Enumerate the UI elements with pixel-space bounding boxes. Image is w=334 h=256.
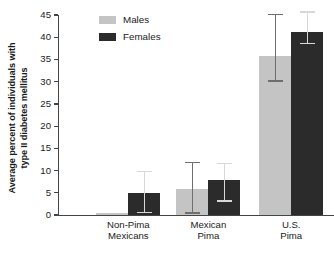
error-bar-stem	[144, 172, 145, 213]
y-axis-tick-label: 35	[29, 53, 51, 65]
y-axis-tick-label: 5	[29, 187, 51, 199]
y-axis-title-line-1: Average percent of individuals with	[7, 18, 19, 218]
y-axis-tick: 15	[28, 142, 58, 154]
error-bar	[208, 15, 240, 215]
y-axis-tick: 45	[28, 9, 58, 21]
bar-chart: Average percent of individuals with type…	[0, 0, 334, 256]
error-bar-stem	[192, 163, 193, 214]
y-axis-tick-mark	[54, 81, 58, 82]
x-axis-group-label: U.S.Pima	[241, 219, 334, 242]
error-bar-cap-lower	[217, 200, 232, 201]
x-axis-line	[58, 215, 334, 216]
y-axis-tick-mark	[54, 103, 58, 104]
legend-swatch	[99, 33, 116, 42]
legend-label: Males	[123, 15, 149, 25]
error-bar-cap-upper	[300, 11, 315, 12]
y-axis-tick-label: 40	[29, 31, 51, 43]
error-bar-cap-upper	[217, 163, 232, 164]
y-axis-tick-mark	[54, 14, 58, 15]
x-axis-group-label-line: Pima	[241, 230, 334, 241]
y-axis-tick: 35	[28, 53, 58, 65]
y-axis-tick: 10	[28, 165, 58, 177]
y-axis-tick: 40	[28, 31, 58, 43]
y-axis-tick-label: 30	[29, 76, 51, 88]
y-axis-tick-label: 20	[29, 120, 51, 132]
error-bar-cap-lower	[268, 80, 283, 81]
y-axis-tick-label: 15	[29, 142, 51, 154]
y-axis-tick-label: 25	[29, 98, 51, 110]
y-axis-tick: 30	[28, 76, 58, 88]
y-axis-line	[58, 15, 59, 215]
x-axis-group-label-line: U.S.	[241, 219, 334, 230]
error-bar-cap-upper	[268, 14, 283, 15]
chart-legend: MalesFemales	[99, 13, 161, 47]
y-axis-tick-label: 10	[29, 165, 51, 177]
legend-label: Females	[123, 32, 161, 42]
error-bar-stem	[224, 164, 225, 202]
y-axis-tick-mark	[54, 214, 58, 215]
legend-swatch	[99, 16, 116, 25]
error-bar-stem	[307, 13, 308, 44]
error-bar-cap-upper	[137, 171, 152, 172]
bar	[96, 213, 128, 215]
error-bar	[291, 15, 323, 215]
y-axis-tick-mark	[54, 148, 58, 149]
error-bar-cap-lower	[137, 212, 152, 213]
legend-item: Males	[99, 13, 161, 27]
error-bar-stem	[275, 15, 276, 82]
y-axis-tick: 20	[28, 120, 58, 132]
y-axis-tick: 0	[28, 209, 58, 221]
error-bar-cap-lower	[185, 212, 200, 213]
y-axis-tick-mark	[54, 37, 58, 38]
y-axis-tick: 5	[28, 187, 58, 199]
y-axis-tick: 25	[28, 98, 58, 110]
error-bar	[176, 15, 208, 215]
error-bar-cap-upper	[185, 162, 200, 163]
y-axis-tick-mark	[54, 192, 58, 193]
legend-item: Females	[99, 30, 161, 44]
y-axis-tick-mark	[54, 59, 58, 60]
error-bar-cap-lower	[300, 43, 315, 44]
error-bar	[259, 15, 291, 215]
y-axis-tick-label: 0	[29, 209, 51, 221]
y-axis-tick-label: 45	[29, 9, 51, 21]
y-axis-tick-mark	[54, 170, 58, 171]
y-axis-tick-mark	[54, 126, 58, 127]
